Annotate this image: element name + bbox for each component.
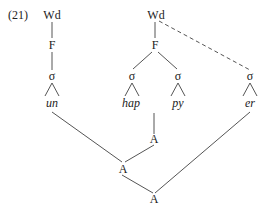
un-a-mid-edge [52, 112, 122, 162]
sigma-py-branches [171, 83, 185, 96]
segment-py: py [171, 96, 184, 110]
left-sigma-node: σ [49, 69, 56, 83]
right-foot-node: F [152, 38, 159, 52]
sigma-hap-branches [125, 83, 139, 96]
a-top-a-mid-edge [125, 145, 154, 162]
er-a-bottom-edge [155, 112, 250, 193]
left-foot-node: F [49, 38, 56, 52]
example-number: (21) [8, 8, 28, 22]
segment-un: un [46, 96, 58, 110]
sigma-hap-node: σ [129, 69, 136, 83]
segment-hap: hap [122, 96, 140, 110]
wd-er-dashed-edge [159, 21, 250, 70]
a-bottom-node: A [150, 192, 159, 206]
prosodic-tree-diagram: (21) Wd F σ un Wd F σ hap σ py σ er A A … [0, 0, 266, 214]
f-sigma-hap-edge [133, 52, 152, 69]
segment-er: er [245, 96, 255, 110]
a-top-node: A [150, 132, 159, 146]
sigma-er-node: σ [247, 69, 254, 83]
left-wd-node: Wd [43, 8, 60, 22]
right-wd-node: Wd [147, 8, 164, 22]
f-sigma-py-edge [158, 52, 177, 69]
a-mid-a-bottom-edge [122, 175, 153, 193]
left-sigma-branches [45, 83, 59, 96]
sigma-er-branches [243, 83, 257, 96]
sigma-py-node: σ [175, 69, 182, 83]
a-mid-node: A [119, 162, 128, 176]
